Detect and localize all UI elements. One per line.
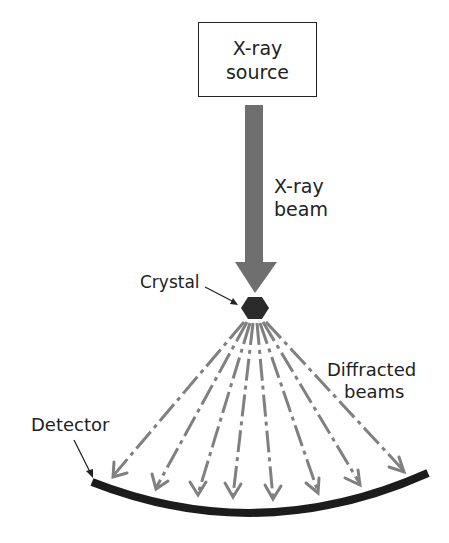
crystal-pointer-arrow [205, 287, 238, 305]
diffracted-beams [113, 322, 404, 498]
diffracted-label-line2: beams [327, 381, 416, 403]
crystal-label: Crystal [140, 272, 200, 293]
beam-label-line1: X-ray [274, 175, 328, 198]
diagram-canvas [0, 0, 449, 543]
beam-label: X-ray beam [274, 175, 328, 221]
detector-arc [92, 473, 428, 513]
beam-label-line2: beam [274, 198, 328, 221]
diffracted-beams-label: Diffracted beams [327, 359, 416, 403]
detector-pointer-arrow [74, 440, 93, 478]
crystal-hexagon [241, 297, 269, 319]
xray-beam-arrow [235, 105, 277, 293]
diffracted-label-line1: Diffracted [327, 359, 416, 381]
detector-label: Detector [31, 414, 109, 435]
diffracted-arrowheads [113, 457, 404, 499]
